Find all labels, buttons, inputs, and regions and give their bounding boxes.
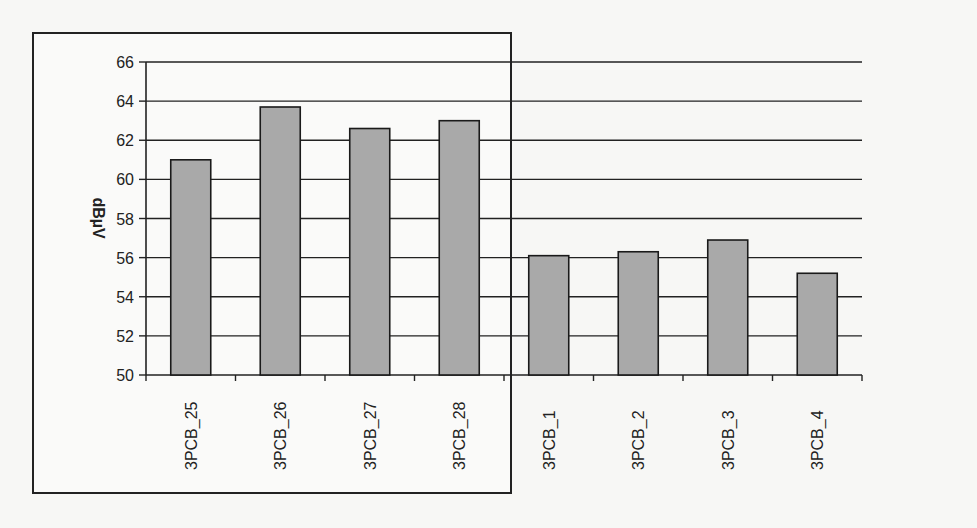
bar-3pcb_3 xyxy=(708,240,748,375)
y-tick-label: 52 xyxy=(116,328,134,345)
y-tick-label: 62 xyxy=(116,132,134,149)
bar-3pcb_26 xyxy=(260,107,300,375)
bar-chart: 505254565860626466dBµV3PCB_253PCB_263PCB… xyxy=(0,0,977,528)
y-tick-label: 64 xyxy=(116,93,134,110)
bar-3pcb_4 xyxy=(797,273,837,375)
y-axis-label: dBµV xyxy=(90,197,107,239)
bar-3pcb_2 xyxy=(618,252,658,375)
bar-3pcb_25 xyxy=(171,160,211,375)
y-tick-label: 56 xyxy=(116,250,134,267)
x-tick-label: 3PCB_4 xyxy=(809,410,827,470)
y-tick-label: 50 xyxy=(116,367,134,384)
y-tick-label: 66 xyxy=(116,54,134,71)
y-tick-label: 60 xyxy=(116,171,134,188)
y-tick-label: 58 xyxy=(116,211,134,228)
x-tick-label: 3PCB_3 xyxy=(720,410,738,470)
bar-3pcb_1 xyxy=(529,256,569,375)
x-tick-label: 3PCB_25 xyxy=(183,401,201,470)
bar-3pcb_28 xyxy=(439,121,479,375)
x-tick-label: 3PCB_28 xyxy=(451,401,469,470)
x-tick-label: 3PCB_26 xyxy=(272,401,290,470)
bar-3pcb_27 xyxy=(350,129,390,375)
x-tick-label: 3PCB_2 xyxy=(630,410,648,470)
x-tick-label: 3PCB_27 xyxy=(362,401,380,470)
x-tick-label: 3PCB_1 xyxy=(541,410,559,470)
y-tick-label: 54 xyxy=(116,289,134,306)
